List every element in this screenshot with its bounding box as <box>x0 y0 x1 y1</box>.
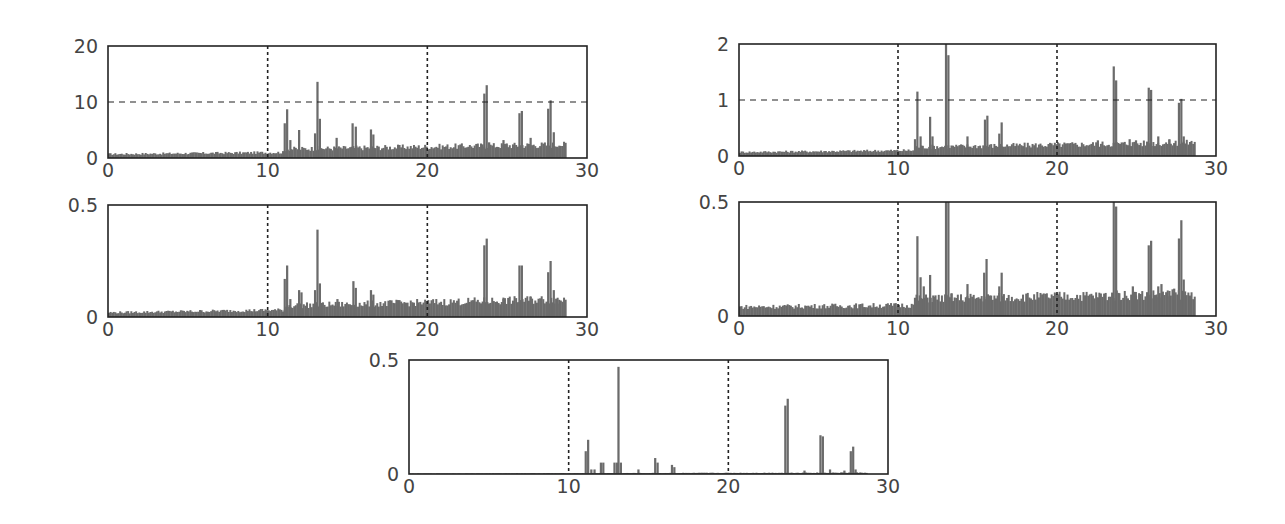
x-tick-label: 20 <box>716 475 740 497</box>
x-tick-label: 10 <box>256 159 280 181</box>
x-tick-label: 10 <box>886 157 910 179</box>
y-tick-label: 1 <box>717 89 729 111</box>
y-tick-label: 2 <box>717 33 729 55</box>
panel-middle-right: 00.50102030 <box>699 191 1228 339</box>
y-tick-label: 0 <box>86 306 98 328</box>
plot-frame <box>409 360 888 474</box>
panel-top-left: 010200102030 <box>74 35 599 181</box>
bar-series <box>108 82 567 158</box>
y-tick-label: 0.5 <box>699 191 729 213</box>
bar-series <box>409 367 868 474</box>
y-tick-label: 20 <box>74 35 98 57</box>
x-tick-label: 10 <box>886 317 910 339</box>
figure-grid: 010200102030012010203000.5010203000.5010… <box>0 0 1285 524</box>
x-tick-label: 20 <box>415 318 439 340</box>
x-tick-label: 0 <box>733 157 745 179</box>
y-tick-label: 10 <box>74 91 98 113</box>
panel-top-right: 0120102030 <box>717 33 1228 179</box>
x-tick-label: 30 <box>575 318 599 340</box>
x-tick-label: 0 <box>102 159 114 181</box>
y-tick-label: 0 <box>86 147 98 169</box>
y-tick-label: 0 <box>387 463 399 485</box>
x-tick-label: 30 <box>575 159 599 181</box>
bar-series <box>739 202 1196 316</box>
panel-middle-left: 00.50102030 <box>68 194 599 340</box>
x-tick-label: 10 <box>256 318 280 340</box>
x-tick-label: 10 <box>557 475 581 497</box>
x-tick-label: 0 <box>403 475 415 497</box>
x-tick-label: 20 <box>1045 317 1069 339</box>
x-tick-label: 0 <box>733 317 745 339</box>
x-tick-label: 0 <box>102 318 114 340</box>
y-tick-label: 0.5 <box>369 349 399 371</box>
x-tick-label: 20 <box>415 159 439 181</box>
x-tick-label: 30 <box>876 475 900 497</box>
y-tick-label: 0.5 <box>68 194 98 216</box>
x-tick-label: 30 <box>1204 317 1228 339</box>
bar-series <box>108 230 567 317</box>
charts-svg: 010200102030012010203000.5010203000.5010… <box>0 0 1285 524</box>
y-tick-label: 0 <box>717 145 729 167</box>
panel-bottom-center: 00.50102030 <box>369 349 900 497</box>
x-tick-label: 20 <box>1045 157 1069 179</box>
y-tick-label: 0 <box>717 305 729 327</box>
x-tick-label: 30 <box>1204 157 1228 179</box>
